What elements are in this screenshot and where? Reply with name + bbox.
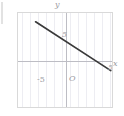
plot-area: 5 -5 O 5 -5 bbox=[17, 12, 113, 108]
x-axis-name: x bbox=[113, 60, 118, 68]
x-tick-label-negative-5: -5 bbox=[37, 76, 45, 84]
scan-edge-artifact bbox=[1, 2, 3, 24]
graph-figure: 5 -5 O 5 -5 y x bbox=[0, 0, 124, 116]
origin-label: O bbox=[69, 75, 76, 83]
plotted-line bbox=[18, 13, 113, 108]
y-tick-label-negative-5: -5 bbox=[62, 107, 70, 108]
y-axis-name: y bbox=[55, 1, 60, 9]
y-tick-label-5: 5 bbox=[62, 31, 67, 39]
